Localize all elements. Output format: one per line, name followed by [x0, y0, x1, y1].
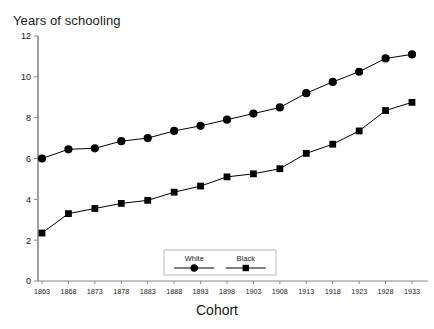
- data-point-white: [64, 145, 72, 153]
- x-tick-label: 1913: [298, 287, 314, 296]
- line-chart-plot: 0246810121863186818731878188318881893189…: [0, 0, 434, 329]
- legend-label-black: Black: [237, 254, 256, 263]
- data-point-white: [355, 68, 363, 76]
- data-point-black: [39, 230, 46, 237]
- y-tick-label: 10: [21, 72, 31, 82]
- data-point-white: [144, 134, 152, 142]
- data-point-black: [409, 99, 416, 106]
- chart-container: Years of schooling 024681012186318681873…: [0, 0, 434, 329]
- data-point-black: [65, 210, 72, 217]
- x-tick-label: 1903: [245, 287, 261, 296]
- data-point-black: [144, 197, 151, 204]
- data-point-white: [223, 116, 231, 124]
- y-tick-label: 8: [26, 113, 31, 123]
- y-tick-label: 2: [26, 236, 31, 246]
- data-point-white: [276, 103, 284, 111]
- data-point-black: [171, 189, 178, 196]
- data-point-white: [91, 144, 99, 152]
- x-tick-label: 1878: [113, 287, 129, 296]
- x-tick-label: 1918: [325, 287, 341, 296]
- legend-marker-black: [243, 265, 249, 271]
- x-tick-label: 1923: [351, 287, 367, 296]
- data-point-white: [408, 50, 416, 58]
- data-point-white: [329, 78, 337, 86]
- y-tick-label: 4: [26, 195, 31, 205]
- data-point-black: [118, 200, 125, 207]
- data-point-black: [91, 205, 98, 212]
- x-tick-label: 1908: [272, 287, 288, 296]
- data-point-white: [117, 137, 125, 145]
- x-tick-label: 1873: [87, 287, 103, 296]
- data-point-black: [303, 150, 310, 157]
- x-tick-label: 1933: [404, 287, 420, 296]
- data-point-white: [381, 54, 389, 62]
- legend-marker-white: [190, 264, 198, 272]
- data-point-white: [196, 122, 204, 130]
- legend-label-white: White: [185, 254, 204, 263]
- data-point-black: [356, 128, 363, 135]
- data-point-white: [302, 89, 310, 97]
- data-point-white: [170, 127, 178, 135]
- x-tick-label: 1888: [166, 287, 182, 296]
- data-point-black: [197, 183, 204, 190]
- y-tick-label: 6: [26, 154, 31, 164]
- y-tick-label: 0: [26, 276, 31, 286]
- data-point-black: [224, 173, 231, 180]
- legend-box: [164, 250, 276, 275]
- data-point-black: [276, 165, 283, 172]
- x-tick-label: 1893: [193, 287, 209, 296]
- x-tick-label: 1883: [140, 287, 156, 296]
- x-tick-label: 1898: [219, 287, 235, 296]
- x-tick-label: 1928: [378, 287, 394, 296]
- data-point-black: [329, 141, 336, 148]
- y-tick-label: 12: [21, 31, 31, 41]
- data-point-white: [38, 154, 46, 162]
- data-point-white: [249, 109, 257, 117]
- x-axis-title: Cohort: [0, 302, 434, 318]
- data-point-black: [382, 107, 389, 114]
- x-tick-label: 1868: [60, 287, 76, 296]
- data-point-black: [250, 170, 257, 177]
- x-tick-label: 1863: [34, 287, 50, 296]
